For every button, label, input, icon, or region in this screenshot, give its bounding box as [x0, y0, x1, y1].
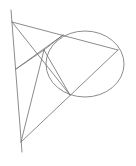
segment-C-D [21, 50, 118, 142]
line-segments [11, 10, 118, 152]
segment-C-P [21, 50, 44, 142]
segment-P-T1 [44, 35, 63, 50]
segment-A-T2 [12, 22, 70, 95]
segment-vertical-line [11, 10, 22, 152]
geometry-diagram [0, 0, 136, 166]
segment-P-T2 [44, 50, 70, 95]
segment-A-D [12, 22, 118, 50]
